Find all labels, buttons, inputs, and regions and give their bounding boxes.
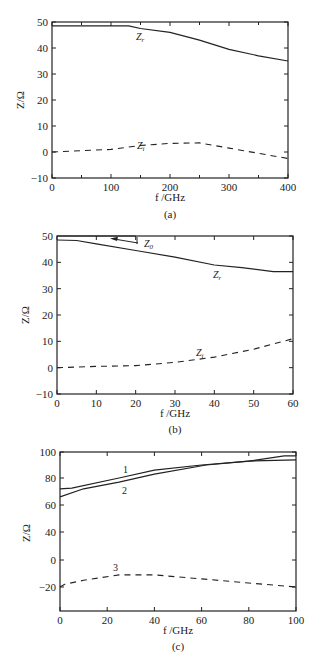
series-line-zr: [57, 240, 293, 272]
caption: (b): [169, 423, 182, 436]
y-tick-label: 20: [42, 309, 54, 321]
x-tick-label: 100: [103, 181, 120, 193]
x-tick-label: 40: [209, 397, 221, 409]
chart-c: 0204060801001008060400−20 1 2 3 f /GHz Z…: [20, 446, 305, 653]
y-tick-label: 40: [45, 526, 57, 538]
y-tick-label: 50: [37, 16, 49, 28]
x-axis-label: f /GHz: [163, 624, 193, 636]
series-group: [60, 456, 296, 587]
x-axis-label: f /GHz: [160, 407, 190, 419]
series-line-zi: [57, 339, 293, 368]
chart-a: 0100200300400−1001020304050 Zr Zi f /GHz…: [14, 16, 297, 221]
arrow-head-icon: [110, 237, 118, 241]
y-tick-label: −10: [31, 172, 49, 184]
x-tick-label: 300: [221, 181, 238, 193]
series-line-3: [60, 575, 296, 587]
x-tick-label: 100: [288, 614, 305, 626]
x-tick-label: 50: [248, 397, 260, 409]
series-label-z0: Z0: [144, 238, 154, 251]
axis-ticks: 0100200300400−1001020304050: [31, 16, 297, 193]
series-label-zi: Zi: [196, 347, 204, 360]
series-label-zr: Zr: [213, 269, 222, 282]
y-axis-label: Z/Ω: [19, 306, 31, 324]
x-tick-label: 0: [57, 614, 63, 626]
x-tick-label: 0: [49, 181, 55, 193]
y-tick-label: 60: [45, 499, 57, 511]
plot-frame: [57, 236, 293, 394]
x-tick-label: 20: [130, 397, 142, 409]
series-group: [57, 236, 293, 368]
x-tick-label: 20: [102, 614, 114, 626]
y-tick-label: 40: [42, 256, 54, 268]
x-tick-label: 400: [280, 181, 297, 193]
plot-frame: [60, 452, 296, 611]
y-tick-label: 30: [42, 283, 54, 295]
caption: (c): [172, 640, 185, 653]
axis-ticks: 0102030405060−1001020304050: [36, 230, 299, 409]
y-tick-label: 80: [45, 472, 57, 484]
figure-canvas: 0100200300400−1001020304050 Zr Zi f /GHz…: [0, 0, 317, 660]
y-tick-label: 30: [37, 68, 49, 80]
y-tick-label: −20: [39, 581, 57, 593]
y-tick-label: 10: [42, 335, 54, 347]
chart-b: 0102030405060−1001020304050 Z0 Zr Zi f /…: [19, 230, 299, 436]
x-tick-label: 40: [149, 614, 161, 626]
y-tick-label: 10: [37, 120, 49, 132]
series-line-2: [60, 460, 296, 497]
series-line-zi: [52, 143, 288, 159]
y-tick-label: −10: [36, 388, 54, 400]
x-tick-label: 60: [196, 614, 208, 626]
x-tick-label: 0: [54, 397, 60, 409]
series-line-zr: [52, 26, 288, 61]
plot-frame: [52, 22, 288, 178]
x-axis-label: f /GHz: [155, 191, 185, 203]
series-label-1: 1: [123, 464, 128, 475]
y-tick-label: 100: [40, 446, 57, 458]
x-tick-label: 80: [243, 614, 255, 626]
y-tick-label: 0: [48, 362, 54, 374]
y-axis-label: Z/Ω: [14, 91, 26, 109]
y-tick-label: 0: [51, 554, 57, 566]
x-tick-label: 10: [91, 397, 103, 409]
series-label-3: 3: [113, 562, 118, 573]
y-tick-label: 50: [42, 230, 54, 242]
annotation-arrow-line: [114, 239, 138, 243]
y-tick-label: 0: [43, 146, 49, 158]
series-label-2: 2: [122, 485, 127, 496]
series-group: [52, 26, 288, 159]
caption: (a): [164, 208, 177, 221]
x-tick-label: 60: [288, 397, 300, 409]
y-axis-label: Z/Ω: [20, 524, 32, 542]
axis-ticks: 0204060801001008060400−20: [39, 446, 305, 626]
y-tick-label: 20: [37, 94, 49, 106]
y-tick-label: 40: [37, 42, 49, 54]
series-label-zr: Zr: [136, 31, 145, 44]
series-label-zi: Zi: [137, 140, 145, 153]
